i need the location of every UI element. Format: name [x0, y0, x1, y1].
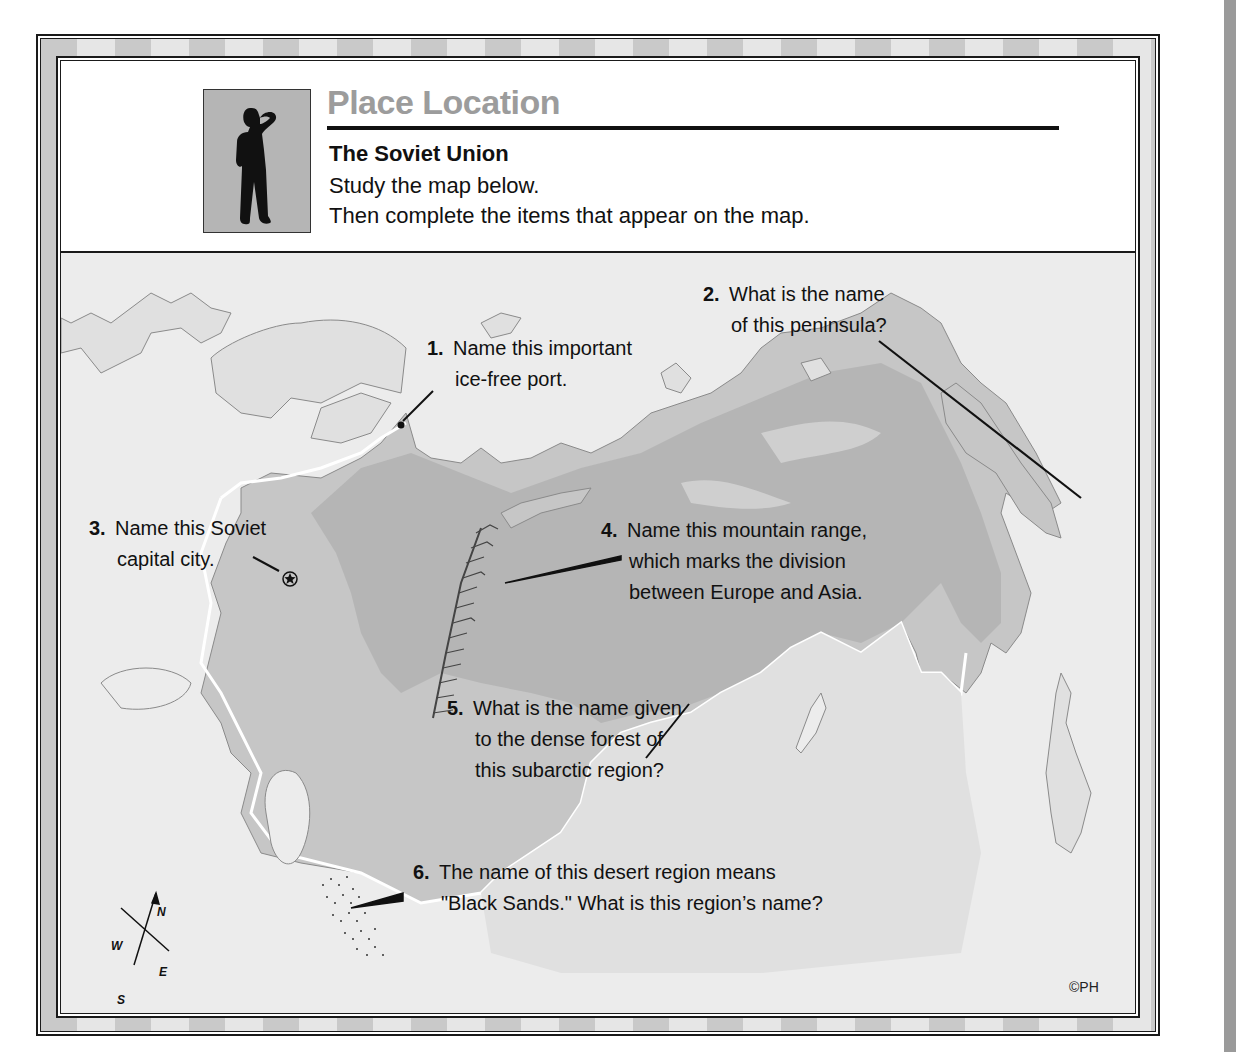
instruction-line-1: Study the map below. [329, 173, 539, 199]
map-subject: The Soviet Union [329, 141, 509, 167]
question-5: 5.What is the name given to the dense fo… [447, 693, 682, 786]
compass-e: E [159, 965, 167, 979]
worksheet-header: Place Location The Soviet Union Study th… [61, 61, 1135, 253]
compass-rose [121, 893, 169, 965]
person-shading-eyes-silhouette-icon [204, 90, 309, 231]
question-3: 3.Name this Soviet capital city. [89, 513, 266, 575]
explorer-portrait [203, 89, 311, 233]
worksheet-panel: Place Location The Soviet Union Study th… [60, 60, 1136, 1014]
kara-kum-desert [322, 876, 384, 956]
question-1: 1.Name this important ice-free port. [427, 333, 632, 395]
page-title: Place Location [327, 83, 560, 122]
scandinavia-landmass [61, 293, 231, 373]
murmansk-port-marker [398, 422, 405, 429]
question-6: 6.The name of this desert region means "… [413, 857, 823, 919]
copyright-notice: ©PH [1069, 979, 1099, 995]
title-underline [327, 126, 1059, 130]
compass-n: N [157, 905, 166, 919]
instruction-line-2: Then complete the items that appear on t… [329, 203, 810, 229]
japan-islands [1046, 673, 1091, 853]
q6-leader-line [351, 893, 403, 908]
question-2: 2.What is the name of this peninsula? [703, 279, 887, 341]
compass-w: W [111, 939, 122, 953]
soviet-union-map: N W E S 1.Name this important ice-free p… [61, 253, 1136, 1014]
page-edge-strip [1224, 0, 1236, 1052]
black-sea [101, 668, 191, 709]
compass-s: S [117, 993, 125, 1007]
severnaya-zemlya [661, 363, 691, 393]
question-4: 4.Name this mountain range, which marks … [601, 515, 867, 608]
q1-leader-line [403, 391, 433, 421]
